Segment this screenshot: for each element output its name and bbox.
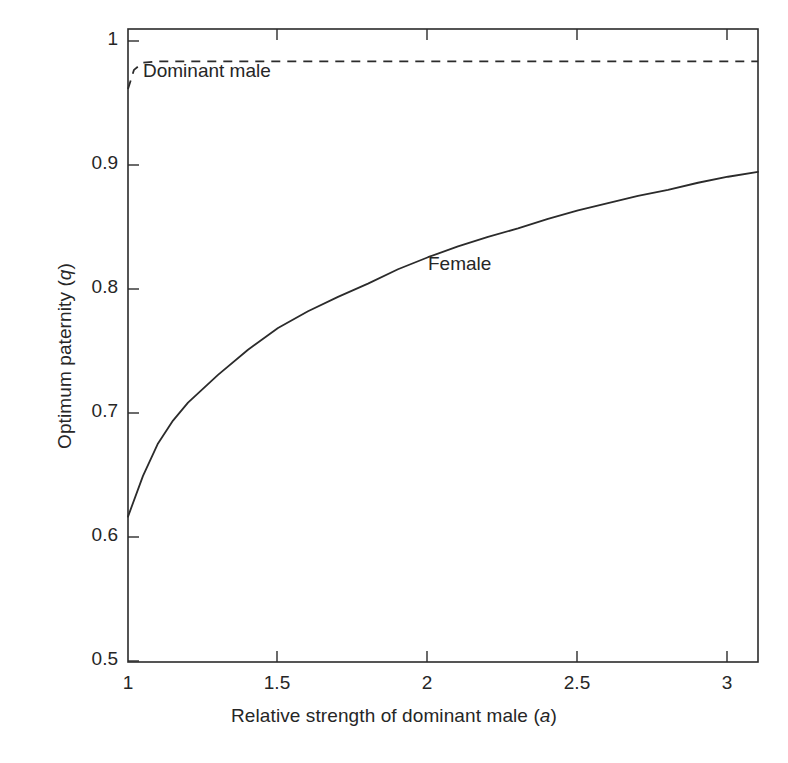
y-axis-title-text: Optimum paternity ( [54, 280, 75, 449]
y-tick-label-0-9: 0.9 [58, 152, 118, 174]
y-axis-title-suffix: ) [54, 263, 75, 269]
x-axis-title: Relative strength of dominant male (a) [0, 705, 788, 727]
y-tick-label-0-7: 0.7 [58, 400, 118, 422]
y-tick-label-0-8: 0.8 [58, 276, 118, 298]
plot-area [0, 0, 788, 763]
x-tick-label-2: 2 [397, 672, 457, 694]
series-curve-female [128, 172, 758, 517]
axes-frame [128, 29, 758, 662]
x-tick-label-1-5: 1.5 [247, 672, 307, 694]
x-tick-marks [277, 29, 727, 662]
y-tick-label-0-5: 0.5 [58, 648, 118, 670]
figure-container: Optimum paternity (q) Relative strength … [0, 0, 788, 763]
y-axis-title: Optimum paternity (q) [54, 146, 76, 566]
x-axis-title-variable: a [540, 705, 551, 726]
series-label-female: Female [428, 253, 491, 275]
x-tick-label-3: 3 [697, 672, 757, 694]
x-axis-title-text: Relative strength of dominant male ( [231, 705, 540, 726]
y-tick-label-0-6: 0.6 [58, 524, 118, 546]
x-tick-label-1: 1 [98, 672, 158, 694]
series-label-dominant-male: Dominant male [143, 60, 271, 82]
y-tick-marks [128, 41, 139, 661]
x-axis-title-suffix: ) [551, 705, 557, 726]
x-tick-label-2-5: 2.5 [547, 672, 607, 694]
y-tick-label-1: 1 [58, 28, 118, 50]
